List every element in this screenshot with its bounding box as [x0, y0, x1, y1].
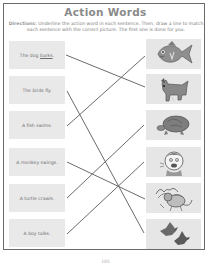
picture-box-monkey[interactable]: [146, 183, 201, 213]
sentence-text: A monkey swings.: [16, 160, 57, 165]
picture-box-fish[interactable]: [146, 39, 201, 69]
picture-box-dog[interactable]: [146, 74, 201, 104]
monkey-icon: [150, 184, 198, 212]
sentence-text: A boy talks.: [24, 231, 51, 236]
directions: Directions: Underline the action word in…: [8, 21, 204, 33]
picture-box-boy[interactable]: [146, 147, 201, 177]
worksheet-title: Action Words: [0, 6, 211, 18]
page-number: 105: [0, 259, 211, 264]
birds-icon: [152, 219, 196, 249]
picture-box-birds[interactable]: [146, 219, 201, 249]
picture-box-turtle[interactable]: [146, 110, 201, 140]
directions-lead: Directions:: [9, 21, 37, 26]
sentence-box-boy[interactable]: A boy talks.: [9, 219, 65, 247]
sentence-text: The dog barks.: [20, 53, 54, 58]
sentence-box-turtle[interactable]: A turtle crawls.: [9, 184, 65, 212]
sentence-box-monkey[interactable]: A monkey swings.: [9, 148, 65, 176]
sentence-text: A fish swims.: [22, 123, 52, 128]
directions-text: Underline the action word in each senten…: [27, 21, 203, 32]
sentence-text: The birds fly.: [22, 88, 51, 93]
dog-icon: [152, 75, 196, 103]
sentence-box-dog[interactable]: The dog barks.: [9, 41, 65, 69]
sentence-text: A turtle crawls.: [20, 196, 55, 201]
fish-icon: [152, 40, 196, 68]
boy-icon: [152, 148, 196, 176]
turtle-icon: [152, 111, 196, 139]
sentence-box-fish[interactable]: A fish swims.: [9, 111, 65, 139]
action-word-underlined: barks: [40, 53, 53, 58]
sentence-box-birds[interactable]: The birds fly.: [9, 76, 65, 104]
